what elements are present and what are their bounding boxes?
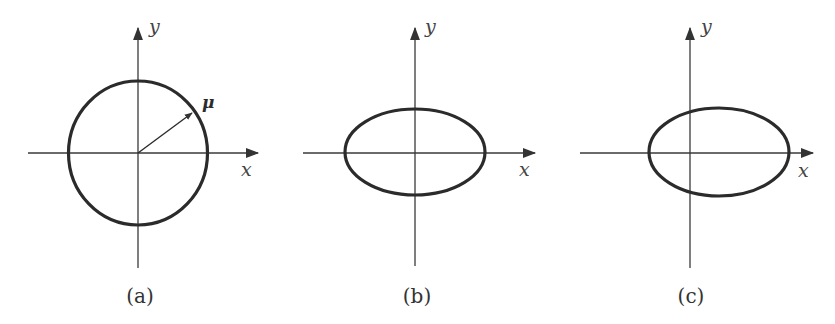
panel-c: y x (c) bbox=[580, 15, 813, 308]
panel-caption: (a) bbox=[126, 284, 154, 308]
panel-b: y x (b) bbox=[303, 15, 535, 308]
x-axis-label: x bbox=[241, 158, 252, 180]
mu-vector-arrow bbox=[138, 113, 192, 153]
y-axis-label: y bbox=[424, 15, 436, 37]
mu-vector-label: μ bbox=[202, 92, 214, 112]
panel-caption: (c) bbox=[678, 284, 705, 308]
shifted-ellipse-shape bbox=[649, 108, 789, 196]
y-axis-label: y bbox=[700, 15, 712, 37]
x-axis-label: x bbox=[519, 158, 530, 180]
figure: μ y x (a) y x (b) y x (c) bbox=[0, 0, 835, 324]
x-axis-label: x bbox=[798, 159, 809, 181]
y-axis-label: y bbox=[148, 15, 160, 37]
panel-caption: (b) bbox=[403, 284, 431, 308]
panel-a: μ y x (a) bbox=[28, 15, 258, 308]
